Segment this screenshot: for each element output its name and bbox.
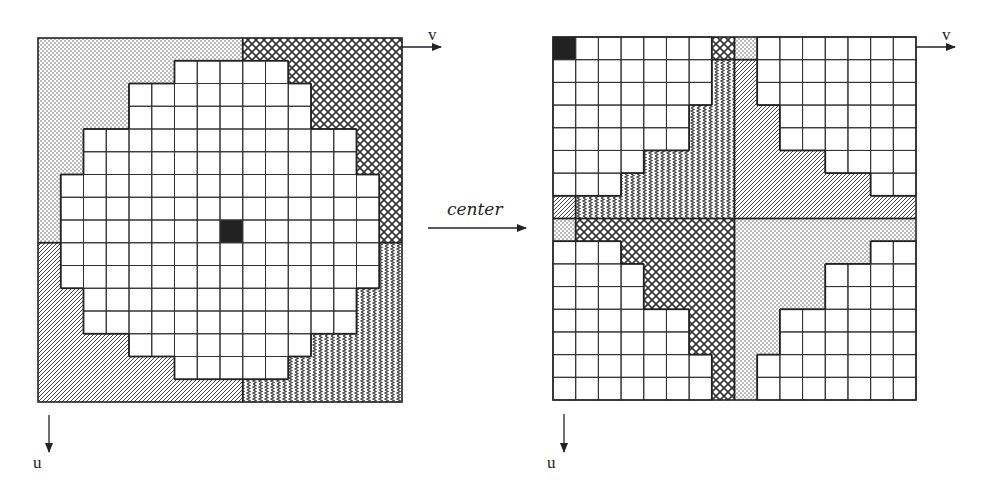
fill-region-cell xyxy=(712,105,735,128)
grid-cell xyxy=(893,150,916,173)
grid-cell xyxy=(106,311,129,334)
fill-region-cell xyxy=(735,105,758,128)
grid-cell xyxy=(266,266,289,289)
grid-cell xyxy=(152,266,175,289)
grid-cell xyxy=(825,150,848,173)
grid-cell xyxy=(666,82,689,105)
fill-region-cell xyxy=(712,309,735,332)
fill-region-cell xyxy=(735,287,758,310)
fill-region-cell xyxy=(84,334,107,357)
fill-region-cell xyxy=(379,379,402,402)
grid-cell xyxy=(175,106,198,129)
grid-cell xyxy=(621,37,644,60)
grid-cell xyxy=(598,332,621,355)
grid-cell xyxy=(576,309,599,332)
grid-cell xyxy=(576,264,599,287)
fill-region-cell xyxy=(379,84,402,107)
grid-cell xyxy=(129,152,152,175)
grid-cell xyxy=(871,264,894,287)
centered-spectrum-grid xyxy=(553,37,916,400)
fill-region-cell xyxy=(61,334,84,357)
fill-region-cell xyxy=(757,173,780,196)
grid-cell xyxy=(152,334,175,357)
grid-cell xyxy=(266,152,289,175)
grid-cell xyxy=(871,377,894,400)
grid-cell xyxy=(152,129,175,152)
grid-cell xyxy=(893,355,916,378)
grid-cell xyxy=(220,197,243,220)
grid-cell xyxy=(576,173,599,196)
fill-region-cell xyxy=(38,175,61,198)
grid-cell xyxy=(803,332,826,355)
grid-cell xyxy=(848,37,871,60)
grid-cell xyxy=(689,377,712,400)
grid-cell xyxy=(243,175,266,198)
grid-cell xyxy=(197,84,220,107)
fill-region-cell xyxy=(266,38,289,61)
grid-cell xyxy=(871,60,894,83)
grid-cell xyxy=(129,84,152,107)
grid-cell xyxy=(311,152,334,175)
fill-region-cell xyxy=(803,150,826,173)
grid-cell xyxy=(357,197,380,220)
grid-cell xyxy=(288,106,311,129)
grid-cell xyxy=(243,266,266,289)
grid-cell xyxy=(666,128,689,151)
fill-region-cell xyxy=(61,311,84,334)
grid-cell xyxy=(848,377,871,400)
grid-cell xyxy=(848,128,871,151)
fill-region-cell xyxy=(288,61,311,84)
grid-cell xyxy=(266,106,289,129)
grid-cell xyxy=(220,106,243,129)
grid-cell xyxy=(288,175,311,198)
grid-cell xyxy=(220,357,243,380)
fill-region-cell xyxy=(689,173,712,196)
fill-region-cell xyxy=(598,196,621,219)
fill-region-cell xyxy=(666,287,689,310)
fill-region-cell xyxy=(197,379,220,402)
grid-cell xyxy=(175,334,198,357)
fill-region-cell xyxy=(311,106,334,129)
fill-region-cell xyxy=(735,60,758,83)
fill-region-cell xyxy=(357,129,380,152)
fill-region-cell xyxy=(712,377,735,400)
grid-cell xyxy=(334,288,357,311)
grid-cell xyxy=(666,37,689,60)
fill-region-cell xyxy=(379,243,402,266)
fill-region-cell xyxy=(84,38,107,61)
grid-cell xyxy=(893,105,916,128)
grid-cell xyxy=(825,377,848,400)
fill-region-cell xyxy=(712,196,735,219)
grid-cell xyxy=(243,243,266,266)
grid-cell xyxy=(243,61,266,84)
fill-region-cell xyxy=(780,173,803,196)
grid-cell xyxy=(197,129,220,152)
grid-cell xyxy=(871,150,894,173)
fill-region-cell xyxy=(197,38,220,61)
fill-region-cell xyxy=(106,106,129,129)
grid-cell xyxy=(893,60,916,83)
grid-cell xyxy=(129,243,152,266)
grid-cell xyxy=(848,60,871,83)
grid-cell xyxy=(243,220,266,243)
grid-cell xyxy=(644,377,667,400)
fill-region-cell xyxy=(61,61,84,84)
grid-cell xyxy=(598,355,621,378)
fill-region-cell xyxy=(666,150,689,173)
grid-cell xyxy=(129,129,152,152)
fill-region-cell xyxy=(61,84,84,107)
fill-region-cell xyxy=(38,243,61,266)
grid-cell xyxy=(243,106,266,129)
fill-region-cell xyxy=(825,241,848,264)
fill-region-cell xyxy=(288,379,311,402)
grid-cell xyxy=(825,332,848,355)
grid-cell xyxy=(175,61,198,84)
fill-region-cell xyxy=(84,357,107,380)
grid-cell xyxy=(106,152,129,175)
fill-region-cell xyxy=(712,332,735,355)
fill-region-cell xyxy=(38,152,61,175)
grid-cell xyxy=(689,355,712,378)
grid-cell xyxy=(757,377,780,400)
fill-region-cell xyxy=(666,173,689,196)
grid-cell xyxy=(644,60,667,83)
